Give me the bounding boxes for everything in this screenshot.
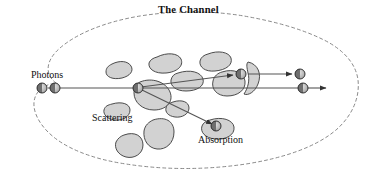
- scattering-label: Scattering: [92, 112, 133, 123]
- photon-incident-1: [37, 83, 47, 93]
- photon-exit-lower: [298, 83, 308, 93]
- photon-at-scatter-site: [133, 83, 143, 93]
- page-title: The Channel: [158, 4, 219, 15]
- photon-dark-half: [37, 83, 42, 93]
- particle-10: [144, 119, 174, 149]
- particle-7-crescent: [244, 62, 260, 95]
- channel-boundary-group: [34, 12, 358, 169]
- photon-dark-half: [298, 83, 303, 93]
- particle-1: [106, 62, 132, 79]
- diagram-canvas: [0, 0, 371, 182]
- particle-3: [200, 52, 231, 71]
- channel-boundary: [34, 12, 358, 169]
- photon-ray-paths: [48, 74, 326, 124]
- photons-label: Photons: [31, 69, 63, 80]
- photon-dark-half: [295, 69, 300, 79]
- photon-scattered-upper: [236, 69, 246, 79]
- photon-absorbed: [211, 121, 221, 131]
- particle-11: [115, 134, 143, 158]
- particle-2: [149, 54, 182, 73]
- channel-diagram: The Channel Photons Scattering Absorptio…: [0, 0, 371, 182]
- photon-incident-2: [50, 83, 60, 93]
- photon-exit-upper: [295, 69, 305, 79]
- absorption-label: Absorption: [198, 134, 243, 145]
